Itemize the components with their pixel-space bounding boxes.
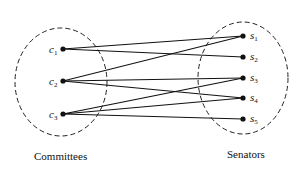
node-s3 [240,75,245,80]
node-s1 [240,33,245,38]
senators-caption: Senators [227,148,265,160]
node-label-c2: c2 [49,75,58,89]
edge-c1-s2 [63,49,243,57]
node-c1 [60,46,65,51]
node-c3 [60,111,65,116]
node-label-c3: c3 [49,108,58,122]
node-label-s1: s1 [250,29,258,43]
edge-c3-s4 [63,98,243,114]
node-label-c1: c1 [49,43,58,57]
node-c2 [60,78,65,83]
edge-c3-s5 [63,114,243,119]
node-label-s5: s5 [250,112,258,126]
node-s2 [240,54,245,59]
bipartite-diagram: c1 c2 c3 s1 s2 s3 s4 s5 Committees Senat… [0,0,307,173]
node-label-s4: s4 [250,91,258,105]
node-label-s3: s3 [250,71,258,85]
node-s4 [240,95,245,100]
committees-caption: Committees [34,150,87,162]
node-s5 [240,116,245,121]
edges [63,36,243,119]
edge-c2-s3 [63,78,243,81]
node-label-s2: s2 [250,50,258,64]
